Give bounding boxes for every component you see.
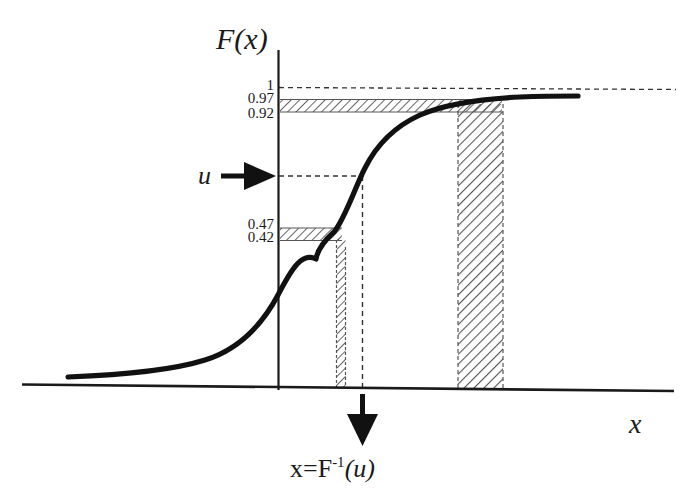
x-axis [22, 385, 674, 392]
hatch-strip-wide [458, 104, 503, 388]
inverse-caption: x=F-1(u) [290, 455, 375, 482]
arrow-down-x-inverse [347, 394, 378, 446]
inverse-caption-exponent: -1 [332, 454, 345, 470]
cdf-inverse-transform-figure: F(x) x u 1 0.97 0.92 0.47 0.42 x=F-1(u) [0, 0, 691, 504]
level-label-u: u [198, 163, 211, 189]
inverse-caption-arg: (u) [345, 454, 375, 483]
inverse-caption-prefix: x=F [290, 454, 332, 483]
y-axis-label: F(x) [216, 24, 268, 54]
y-tick-label-092: 0.92 [222, 106, 274, 121]
arrow-right-u [221, 162, 276, 190]
level-line-one [279, 88, 676, 90]
y-tick-label-097: 0.97 [222, 91, 274, 106]
figure-canvas [0, 0, 691, 504]
y-tick-label-042: 0.42 [222, 230, 274, 245]
x-axis-label: x [629, 410, 641, 438]
hatch-strip-narrow [337, 238, 346, 388]
